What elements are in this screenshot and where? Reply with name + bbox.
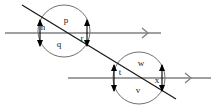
angle-label-v: v	[136, 85, 141, 95]
angle-label-r: r	[81, 33, 84, 43]
geometry-diagram-canvas: p n q r w t v x	[0, 0, 213, 112]
angle-label-q: q	[57, 39, 62, 49]
geometry-figure: p n q r w t v x	[0, 0, 213, 112]
angle-label-w: w	[138, 58, 145, 68]
marker-arrowhead-down-upper-left	[37, 40, 43, 47]
marker-arrowhead-up-upper-right	[84, 19, 90, 26]
marker-arrowhead-up-lower-right	[159, 64, 165, 71]
angle-label-x: x	[155, 75, 160, 85]
angle-label-n: n	[41, 22, 46, 32]
transversal-line	[22, 5, 176, 99]
angle-label-p: p	[64, 15, 69, 25]
angle-label-t: t	[119, 67, 122, 77]
